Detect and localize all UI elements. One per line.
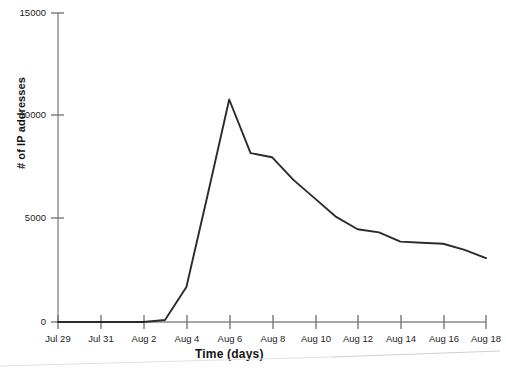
y-tick-label-0: 0 xyxy=(4,316,46,327)
y-axis-title: # of IP addresses xyxy=(15,58,27,188)
x-axis-title: Time (days) xyxy=(195,347,264,361)
x-tick-label-aug-18: Aug 18 xyxy=(456,333,506,344)
data-series-line xyxy=(58,100,486,322)
y-tick-label-5000: 5000 xyxy=(4,212,46,223)
y-tick-label-15000: 15000 xyxy=(4,7,46,18)
